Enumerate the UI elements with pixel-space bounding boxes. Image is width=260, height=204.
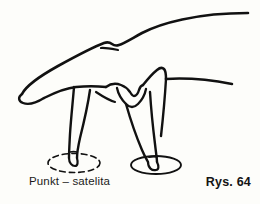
- knuckle-notch: [117, 88, 146, 107]
- middle-finger-outer-edge: [126, 104, 148, 162]
- index-fingertip: [69, 158, 78, 166]
- hand-right-outline: [143, 68, 166, 85]
- figure-container: Punkt – satelita Rys. 64: [0, 0, 260, 204]
- hand-line-drawing: [0, 0, 260, 204]
- thumb-tip-outline: [19, 94, 44, 104]
- middle-finger-inner-edge: [150, 92, 157, 162]
- finger-web-fold: [96, 92, 115, 102]
- index-finger-inner-edge: [77, 90, 90, 158]
- middle-knuckle-detail: [106, 84, 143, 96]
- index-finger-outer-edge: [69, 87, 74, 158]
- hand-side-contour: [161, 79, 166, 136]
- knuckle-crease-top: [101, 48, 118, 50]
- satellite-point-dashed-ellipse: [48, 154, 100, 173]
- figure-number-label: Rys. 64: [206, 175, 251, 189]
- last-finger-outline: [166, 79, 232, 84]
- middle-fingertip: [148, 162, 158, 170]
- satellite-point-caption: Punkt – satelita: [29, 175, 110, 187]
